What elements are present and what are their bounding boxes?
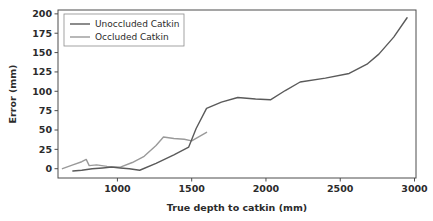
x-axis-label: True depth to catkin (mm) [167,202,307,213]
y-tick-label: 50 [39,124,53,135]
y-tick-label: 175 [32,28,52,39]
y-tick-label: 25 [39,144,52,155]
y-tick-label: 200 [32,8,52,19]
x-tick-label: 1500 [178,183,205,194]
y-axis-ticks: 0255075100125150175200 [32,8,58,174]
error-vs-depth-line-chart: 10001500200025003000 0255075100125150175… [0,0,433,221]
x-tick-label: 2500 [327,183,354,194]
y-tick-label: 75 [39,105,52,116]
legend-label-occluded-catkin: Occluded Catkin [95,32,169,42]
y-tick-label: 125 [32,66,52,77]
y-tick-label: 0 [45,163,52,174]
x-tick-label: 3000 [401,183,428,194]
legend-label-unoccluded-catkin: Unoccluded Catkin [95,19,179,29]
chart-figure: 10001500200025003000 0255075100125150175… [0,0,433,221]
x-tick-label: 1000 [104,183,131,194]
x-axis-ticks: 10001500200025003000 [104,178,428,194]
y-tick-label: 150 [32,47,52,58]
y-axis-label: Error (mm) [7,65,18,124]
y-tick-label: 100 [32,86,52,97]
chart-legend: Unoccluded Catkin Occluded Catkin [64,14,184,46]
x-tick-label: 2000 [253,183,280,194]
